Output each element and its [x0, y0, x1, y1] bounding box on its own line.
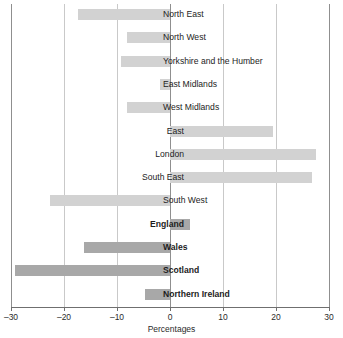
chart-row: West Midlands [0, 97, 343, 120]
bar-label: England [150, 217, 184, 231]
chart-row: East [0, 121, 343, 144]
bar [78, 9, 170, 20]
bar [50, 195, 170, 206]
x-tick-label-30: 30 [324, 312, 333, 322]
chart-row: Yorkshire and the Humber [0, 51, 343, 74]
bar-label: Scotland [163, 263, 199, 277]
chart-row: North West [0, 27, 343, 50]
chart-row: South East [0, 167, 343, 190]
bar [170, 149, 316, 160]
bar-label: North East [163, 7, 204, 21]
bar-label: North West [163, 30, 206, 44]
chart-row: East Midlands [0, 74, 343, 97]
bar-label: Wales [163, 240, 188, 254]
bar-label: West Midlands [163, 100, 219, 114]
bar-chart: Percentages –30–20–100102030North EastNo… [0, 0, 343, 338]
bar [84, 242, 170, 253]
x-tick-10 [223, 307, 224, 311]
chart-row: Scotland [0, 260, 343, 283]
bar [15, 265, 170, 276]
x-tick-30 [329, 307, 330, 311]
x-tick-0 [170, 307, 171, 311]
bar-label: South East [142, 170, 184, 184]
x-axis-title: Percentages [0, 324, 343, 334]
x-tick-label--30: –30 [4, 312, 18, 322]
chart-row: North East [0, 4, 343, 27]
bar-label: Northern Ireland [163, 287, 230, 301]
chart-row: Northern Ireland [0, 284, 343, 307]
x-tick--20 [64, 307, 65, 311]
x-tick-20 [276, 307, 277, 311]
x-tick--10 [117, 307, 118, 311]
bar-label: London [155, 147, 184, 161]
x-tick-label--20: –20 [57, 312, 71, 322]
bar [170, 172, 312, 183]
chart-row: England [0, 214, 343, 237]
bar-label: East [167, 124, 184, 138]
bar-label: Yorkshire and the Humber [163, 54, 263, 68]
chart-row: Wales [0, 237, 343, 260]
x-tick--30 [11, 307, 12, 311]
x-tick-label-10: 10 [218, 312, 227, 322]
x-tick-label--10: –10 [110, 312, 124, 322]
bar [170, 126, 273, 137]
x-tick-label-0: 0 [168, 312, 173, 322]
bar-label: South West [163, 193, 207, 207]
chart-row: London [0, 144, 343, 167]
bar-label: East Midlands [163, 77, 217, 91]
x-tick-label-20: 20 [271, 312, 280, 322]
chart-row: South West [0, 190, 343, 213]
